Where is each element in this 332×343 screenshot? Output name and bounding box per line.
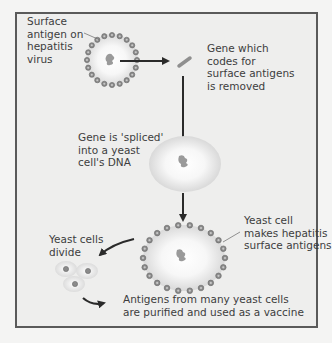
label-pointer-virus (84, 33, 100, 40)
label-virus-antigen: Surface antigen on hepatitis virus (27, 15, 83, 65)
gene-fragment-icon (179, 58, 190, 66)
dividing-yeast-cells (55, 261, 98, 292)
yeast-cell-antigens (140, 223, 228, 294)
label-pointer-yeast (223, 232, 240, 242)
label-yeast-makes-antigens: Yeast cell makes hepatitis surface antig… (244, 214, 332, 252)
label-gene-removed: Gene which codes for surface antigens is… (207, 42, 295, 92)
arrow-to-dividing-cells (100, 239, 134, 255)
label-gene-spliced: Gene is 'spliced' into a yeast cell's DN… (78, 131, 163, 169)
label-purified-vaccine: Antigens from many yeast cells are purif… (123, 293, 304, 318)
arrow-to-vaccine (83, 298, 104, 304)
label-yeast-divide: Yeast cells divide (49, 233, 103, 258)
